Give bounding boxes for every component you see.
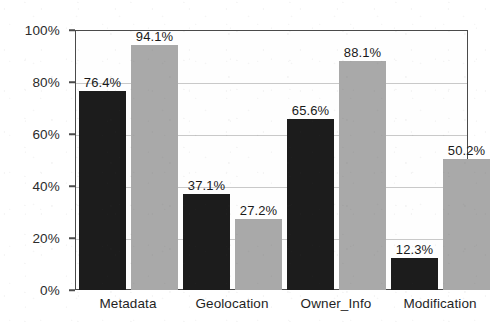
- bar-geolocation-series1: [183, 194, 230, 290]
- y-axis-label-80: 80%: [32, 75, 60, 90]
- y-axis-label-20: 20%: [32, 231, 60, 246]
- x-axis: Metadata Geolocation Owner_Info Modifica…: [75, 292, 468, 322]
- bar-owner-info-series1: [287, 119, 334, 290]
- y-axis-label-0: 0%: [40, 283, 60, 298]
- bar-geolocation-series2: [235, 219, 282, 290]
- y-axis-label-60: 60%: [32, 127, 60, 142]
- y-axis-label-100: 100%: [25, 23, 60, 38]
- x-axis-label-metadata: Metadata: [99, 296, 156, 311]
- value-label-modification-series2: 50.2%: [448, 143, 485, 158]
- value-label-modification-series1: 12.3%: [396, 242, 433, 257]
- x-axis-label-geolocation: Geolocation: [195, 296, 268, 311]
- bar-modification-series1: [391, 258, 438, 290]
- value-label-owner-info-series1: 65.6%: [292, 103, 329, 118]
- value-label-metadata-series2: 94.1%: [136, 29, 173, 44]
- value-label-metadata-series1: 76.4%: [84, 75, 121, 90]
- bar-metadata-series1: [79, 91, 126, 290]
- bar-chart: 100% 80% 60% 40% 20% 0% 76.4% 94.1%: [0, 0, 495, 327]
- bars-layer: 76.4% 94.1% 37.1% 27.2% 65.6% 88.1% 12.3…: [75, 30, 468, 290]
- bar-owner-info-series2: [339, 61, 386, 290]
- x-axis-label-modification: Modification: [403, 296, 476, 311]
- value-label-geolocation-series1: 37.1%: [188, 178, 225, 193]
- y-axis: 100% 80% 60% 40% 20% 0%: [0, 0, 68, 327]
- bar-metadata-series2: [131, 45, 178, 290]
- bar-modification-series2: [443, 159, 490, 290]
- y-axis-label-40: 40%: [32, 179, 60, 194]
- value-label-owner-info-series2: 88.1%: [344, 45, 381, 60]
- x-axis-label-owner-info: Owner_Info: [301, 296, 372, 311]
- value-label-geolocation-series2: 27.2%: [240, 203, 277, 218]
